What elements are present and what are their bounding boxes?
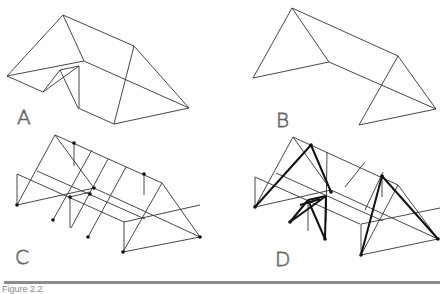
- panel-label-a: A: [17, 105, 31, 129]
- panel-label-c: C: [15, 245, 29, 269]
- panel-c-construction: [15, 135, 202, 254]
- panel-a-roof: [7, 15, 189, 124]
- figure-caption: Figure 2.2: [2, 284, 43, 294]
- panel-d-construction: [253, 137, 440, 257]
- panel-label-b: B: [276, 108, 289, 132]
- caption-divider: [4, 281, 440, 284]
- panel-label-d: D: [275, 247, 290, 271]
